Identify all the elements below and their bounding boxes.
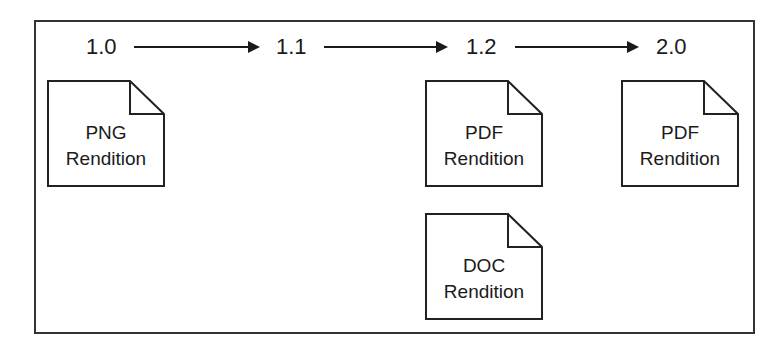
rendition-format: PDF [621,120,739,146]
version-1-2-label: 1.2 [466,31,497,63]
version-2-0-label: 2.0 [656,31,687,63]
rendition-word: Rendition [621,146,739,172]
rendition-word: Rendition [47,146,165,172]
version-1-1-label: 1.1 [276,31,307,63]
rendition-format: PDF [425,120,543,146]
png-rendition-document: PNG Rendition [47,80,165,187]
rendition-format: DOC [425,253,543,279]
arrow-right-icon [324,46,446,48]
rendition-word: Rendition [425,146,543,172]
pdf-rendition-document-2-0: PDF Rendition [621,80,739,187]
arrow-right-icon [515,46,637,48]
rendition-format: PNG [47,120,165,146]
arrow-right-icon [134,46,258,48]
version-1-0-label: 1.0 [86,31,117,63]
pdf-rendition-document-1-2: PDF Rendition [425,80,543,187]
rendition-word: Rendition [425,279,543,305]
doc-rendition-document: DOC Rendition [425,213,543,320]
